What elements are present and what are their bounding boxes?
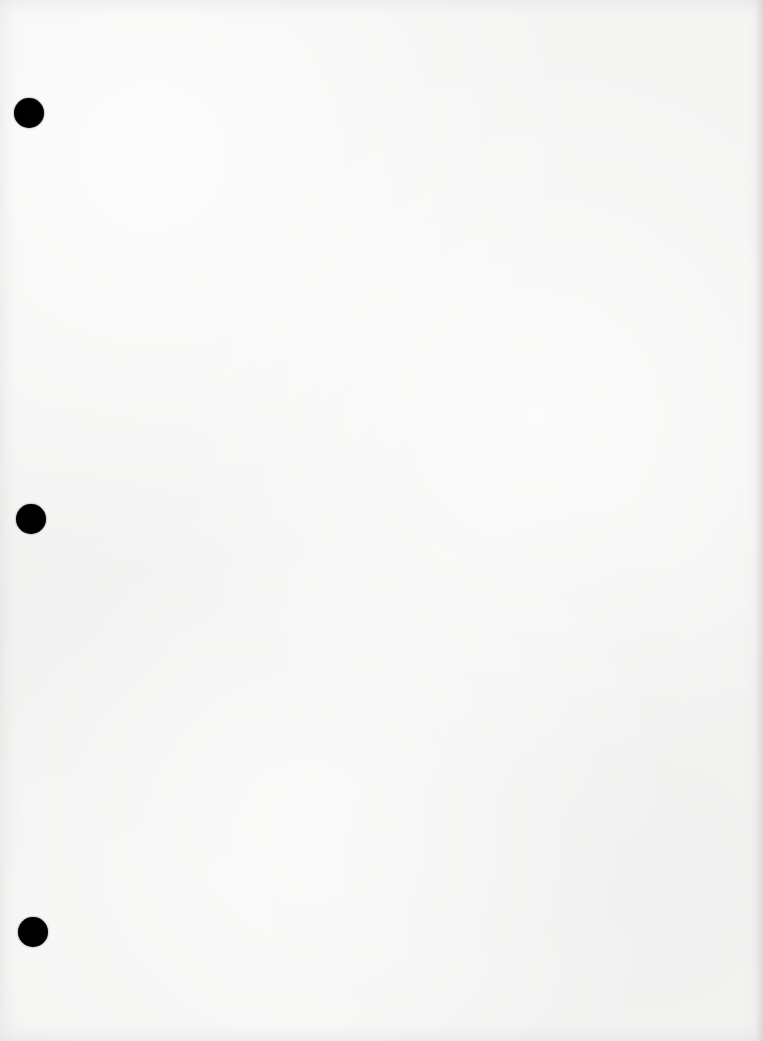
page-edge-shadow [755,0,763,1041]
punch-hole-2 [16,504,46,534]
punch-hole-3 [18,917,48,947]
blank-page [0,0,763,1041]
punch-hole-1 [14,98,44,128]
